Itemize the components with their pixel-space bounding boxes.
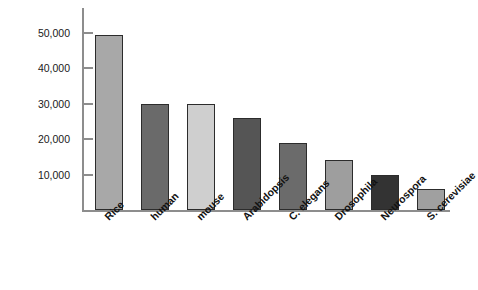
y-tick-label: 10,000 [14,169,70,181]
y-axis-line [82,8,84,211]
bar [141,104,169,210]
bar [95,35,123,210]
y-tick-label: 40,000 [14,62,70,74]
y-tick-mark [84,174,93,176]
bar [187,104,215,210]
y-tick-mark [84,67,93,69]
plot-area: 10,00020,00030,00040,00050,000 [82,8,450,211]
y-tick-mark [84,32,93,34]
y-tick-label: 50,000 [14,27,70,39]
y-tick-mark [84,103,93,105]
y-tick-mark [84,138,93,140]
x-axis-category-labels: RicehumanmouseArabidopsisC. elegansDroso… [82,214,450,290]
y-tick-label: 20,000 [14,133,70,145]
y-tick-label: 30,000 [14,98,70,110]
